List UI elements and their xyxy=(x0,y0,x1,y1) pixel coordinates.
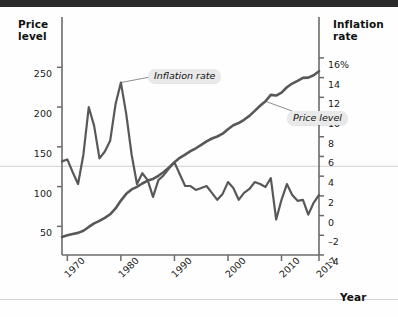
callout-price-level: Price level xyxy=(287,111,348,125)
right-tick-label-8: 8 xyxy=(328,138,360,149)
right-tick-label-0: 0 xyxy=(328,217,360,228)
right-tick-label-12: 12 xyxy=(328,98,360,109)
right-axis-title: Inflation rate xyxy=(333,19,395,42)
chart-canvas: Price level Inflation rate Year 25020015… xyxy=(0,7,398,299)
left-tick-label-250: 250 xyxy=(18,68,52,79)
left-axis-title-line1: Price xyxy=(18,18,48,30)
x-axis-title: Year xyxy=(340,292,390,304)
right-tick-label-6: 6 xyxy=(328,157,360,168)
right-axis-title-line1: Inflation xyxy=(333,18,384,30)
right-tick-label-4: 4 xyxy=(328,177,360,188)
figure-root: Price level Inflation rate Year 25020015… xyxy=(0,0,398,317)
left-axis-title-line2: level xyxy=(18,30,47,42)
right-tick-label-16: 16% xyxy=(328,59,360,70)
right-tick-label-14: 14 xyxy=(328,79,360,90)
leader-inflation xyxy=(121,77,150,83)
left-tick-label-200: 200 xyxy=(18,108,52,119)
left-axis-title: Price level xyxy=(18,19,78,42)
right-tick-label--2: –2 xyxy=(328,236,360,247)
right-axis-title-line2: rate xyxy=(333,30,358,42)
series-line-price-level xyxy=(62,71,319,237)
footer-rule xyxy=(0,299,398,300)
right-tick-label-2: 2 xyxy=(328,197,360,208)
left-tick-label-150: 150 xyxy=(18,148,52,159)
callout-inflation-rate: Inflation rate xyxy=(148,69,221,83)
leader-price xyxy=(265,101,292,111)
left-tick-label-100: 100 xyxy=(18,188,52,199)
top-bar xyxy=(0,0,398,7)
left-tick-label-50: 50 xyxy=(18,227,52,238)
